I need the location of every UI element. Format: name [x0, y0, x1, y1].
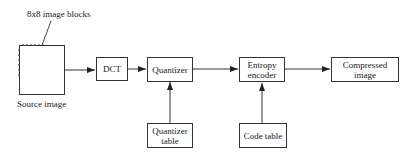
- compressed-image-label: Compressed image: [332, 60, 398, 80]
- source-image-label: Source image: [17, 99, 66, 109]
- quant-table-line2: table: [161, 136, 179, 146]
- entropy-label-line2: encoder: [248, 70, 276, 80]
- code-table-box: Code table: [239, 123, 287, 148]
- quantizer-label: Quantizer: [152, 65, 187, 75]
- quantizer-table-box: Quantizer table: [147, 123, 193, 148]
- dct-label: DCT: [103, 64, 121, 74]
- dct-box: DCT: [96, 57, 128, 81]
- quantizer-box: Quantizer: [147, 57, 193, 82]
- compressed-image-box: Compressed image: [331, 57, 399, 82]
- code-table-label: Code table: [244, 131, 283, 141]
- image-blocks-annotation: 8x8 image blocks: [27, 9, 91, 19]
- entropy-label-line1: Entropy: [248, 60, 277, 70]
- quant-table-line1: Quantizer: [152, 126, 187, 136]
- source-image-box: [19, 45, 65, 95]
- entropy-encoder-box: Entropy encoder: [239, 57, 285, 82]
